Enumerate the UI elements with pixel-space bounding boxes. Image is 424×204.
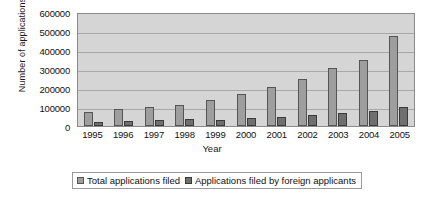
bar-total: [145, 107, 154, 126]
bar-foreign: [124, 121, 133, 126]
bar-foreign: [338, 113, 347, 126]
bar-foreign: [399, 107, 408, 126]
x-axis-tick: 2004: [354, 129, 385, 140]
bar-foreign: [216, 120, 225, 126]
bar-foreign: [247, 118, 256, 126]
plot-area: [77, 13, 415, 127]
legend-swatch-total-icon: [77, 177, 84, 184]
bar-total: [389, 36, 398, 126]
bar-foreign: [308, 115, 317, 126]
legend-label-total: Total applications filed: [87, 175, 180, 186]
bar-total: [114, 109, 123, 126]
x-axis-tick: 2000: [231, 129, 262, 140]
x-axis-tick: 1996: [108, 129, 139, 140]
bar-groups: [78, 14, 414, 126]
bar-group: [261, 14, 292, 126]
y-axis-tick: 600000: [39, 8, 70, 19]
y-axis-tick: 300000: [39, 65, 70, 76]
bar-total: [267, 87, 276, 126]
bar-group: [231, 14, 262, 126]
x-axis-tick: 1995: [77, 129, 108, 140]
bar-group: [200, 14, 231, 126]
x-axis-tick: 1998: [169, 129, 200, 140]
x-axis-tick: 2003: [323, 129, 354, 140]
y-axis-tick: 400000: [39, 46, 70, 57]
y-axis-tick: 500000: [39, 27, 70, 38]
bar-foreign: [155, 120, 164, 126]
bar-group: [109, 14, 140, 126]
bar-group: [139, 14, 170, 126]
bar-total: [359, 60, 368, 127]
x-axis-tick: 1997: [138, 129, 169, 140]
y-axis-tick-labels: 0100000200000300000400000500000600000: [0, 0, 75, 140]
legend: Total applications filed Applications fi…: [72, 172, 362, 189]
y-axis-tick: 200000: [39, 84, 70, 95]
legend-swatch-foreign-icon: [185, 177, 192, 184]
bar-group: [383, 14, 414, 126]
x-axis-tick: 1999: [200, 129, 231, 140]
x-axis-tick: 2005: [384, 129, 415, 140]
y-axis-tick: 100000: [39, 103, 70, 114]
legend-label-foreign: Applications filed by foreign applicants: [195, 175, 356, 186]
x-axis-title: Year: [0, 143, 424, 154]
bar-group: [170, 14, 201, 126]
bar-foreign: [369, 111, 378, 126]
bar-total: [206, 100, 215, 126]
bar-group: [322, 14, 353, 126]
bar-total: [328, 68, 337, 126]
bar-total: [84, 112, 93, 126]
bar-foreign: [185, 119, 194, 126]
x-axis-tick: 2001: [261, 129, 292, 140]
x-axis-tick-labels: 1995199619971998199920002001200220032004…: [77, 129, 415, 140]
bar-group: [292, 14, 323, 126]
bar-group: [78, 14, 109, 126]
bar-foreign: [94, 122, 103, 126]
bar-total: [237, 94, 246, 126]
y-axis-tick: 0: [65, 122, 70, 133]
legend-item-foreign: Applications filed by foreign applicants: [185, 175, 356, 186]
bar-total: [298, 79, 307, 127]
bar-chart: Number of applications 01000002000003000…: [0, 0, 424, 204]
bar-group: [353, 14, 384, 126]
bar-foreign: [277, 117, 286, 126]
x-axis-tick: 2002: [292, 129, 323, 140]
legend-item-total: Total applications filed: [77, 175, 180, 186]
bar-total: [175, 105, 184, 126]
